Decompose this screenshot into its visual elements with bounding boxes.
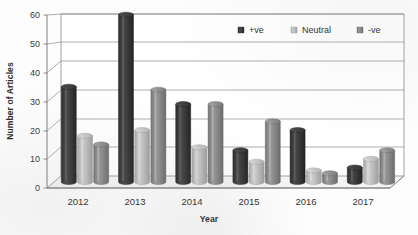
y-tick-label-40: 40 — [30, 68, 40, 78]
bar-negative-2013 — [151, 87, 166, 184]
bar-highlight — [179, 105, 181, 180]
bar-body — [380, 150, 395, 184]
bar-top-cap — [78, 133, 93, 138]
bar-highlight — [138, 131, 140, 181]
bar-positive-2014 — [176, 102, 191, 185]
bar-highlight — [351, 169, 353, 181]
bar-top-cap — [249, 159, 264, 164]
bar-highlight — [155, 91, 157, 181]
x-tick-label-2016: 2016 — [295, 196, 316, 207]
bar-highlight — [81, 137, 83, 181]
bar-top-cap — [306, 168, 321, 173]
legend-swatch-positive — [238, 27, 244, 33]
bar-negative-2015 — [265, 119, 280, 185]
bar-body — [265, 121, 280, 184]
bar-top-cap — [151, 87, 166, 92]
bar-body — [192, 147, 207, 184]
bar-highlight — [367, 160, 369, 181]
bar-body — [208, 104, 223, 184]
bar-negative-2016 — [323, 171, 338, 185]
bar-highlight — [294, 131, 296, 181]
x-axis-title: Year — [200, 214, 219, 224]
bar-top-cap — [290, 128, 305, 133]
bar-top-cap — [364, 156, 379, 161]
bar-top-cap — [94, 142, 109, 147]
bar-highlight — [253, 163, 255, 181]
bar-positive-2013 — [119, 12, 134, 184]
bar-neutral-2015 — [249, 159, 264, 184]
legend-swatch-neutral — [291, 27, 297, 33]
x-tick-label-2012: 2012 — [67, 196, 88, 207]
bar-body — [119, 15, 134, 185]
bar-top-cap — [176, 102, 191, 107]
bar-top-cap — [265, 119, 280, 124]
bar-highlight — [65, 88, 67, 181]
x-tick-label-2013: 2013 — [124, 196, 145, 207]
x-tick-label-2014: 2014 — [181, 196, 202, 207]
bar-negative-2017 — [380, 148, 395, 185]
y-tick-label-20: 20 — [30, 126, 40, 136]
y-tick-label-10: 10 — [30, 154, 40, 164]
bar-highlight — [383, 151, 385, 180]
bar-positive-2016 — [290, 128, 305, 185]
x-tick-label-2015: 2015 — [238, 196, 259, 207]
bar-body — [233, 150, 248, 184]
bar-highlight — [326, 175, 328, 181]
bar-neutral-2016 — [306, 168, 321, 185]
bar-body — [176, 104, 191, 184]
bar-body — [135, 130, 150, 184]
bar-top-cap — [380, 148, 395, 153]
bar-highlight — [269, 123, 271, 181]
bar-top-cap — [233, 148, 248, 153]
bar-highlight — [97, 146, 99, 181]
bar-body — [61, 87, 76, 185]
y-tick-label-60: 60 — [30, 10, 40, 20]
y-axis-title: Number of Articles — [5, 62, 15, 140]
bar-neutral-2013 — [135, 128, 150, 185]
bar-top-cap — [61, 84, 76, 89]
bar-highlight — [122, 16, 124, 181]
bar-top-cap — [208, 102, 223, 107]
bar-top-cap — [119, 12, 134, 17]
bar-body — [290, 130, 305, 184]
y-tick-label-0: 0 — [35, 183, 40, 193]
bar-top-cap — [323, 171, 338, 176]
bar-highlight — [196, 149, 198, 181]
legend-label-positive: +ve — [249, 25, 264, 35]
bar-body — [151, 90, 166, 185]
bar-body — [78, 136, 93, 185]
bar-body — [94, 145, 109, 185]
legend-label-negative: -ve — [368, 25, 381, 35]
bar-body — [364, 159, 379, 185]
bar-neutral-2017 — [364, 156, 379, 184]
bar-highlight — [212, 105, 214, 180]
bar-negative-2012 — [94, 142, 109, 185]
y-axis-tick-labels: 0 10 20 30 40 50 60 — [30, 10, 40, 193]
legend-swatch-negative — [357, 27, 363, 33]
bar-top-cap — [192, 145, 207, 150]
y-tick-label-30: 30 — [30, 97, 40, 107]
bar-highlight — [310, 172, 312, 181]
bar-top-cap — [347, 165, 362, 170]
bar-body — [249, 162, 264, 185]
legend-label-neutral: Neutral — [302, 25, 331, 35]
bar-negative-2014 — [208, 102, 223, 185]
bar-highlight — [237, 151, 239, 180]
x-axis-tick-labels: 2012 2013 2014 2015 2016 2017 — [67, 196, 373, 207]
bar-top-cap — [135, 128, 150, 133]
bar-positive-2015 — [233, 148, 248, 185]
plot-back-wall — [61, 14, 404, 176]
bar-neutral-2014 — [192, 145, 207, 185]
x-tick-label-2017: 2017 — [352, 196, 373, 207]
chart-figure: 0 10 20 30 40 50 60 Number of Articles 2… — [0, 0, 418, 235]
bar-chart-canvas: 0 10 20 30 40 50 60 Number of Articles 2… — [0, 0, 418, 235]
bar-positive-2012 — [61, 84, 76, 184]
bar-neutral-2012 — [78, 133, 93, 184]
y-tick-label-50: 50 — [30, 39, 40, 49]
bar-positive-2017 — [347, 165, 362, 185]
y-tickmarks — [44, 15, 48, 188]
